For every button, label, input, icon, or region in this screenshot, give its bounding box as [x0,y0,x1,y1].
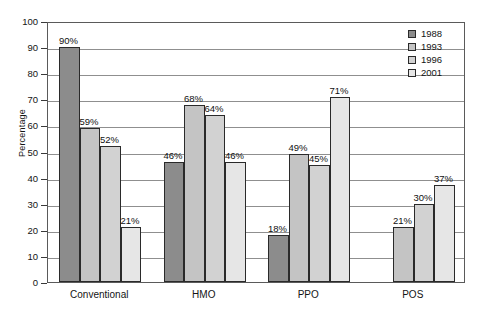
x-axis-category-label: Conventional [47,289,152,301]
bar-value-label: 21% [386,216,419,226]
y-axis-tick [41,22,47,23]
bar [268,235,289,282]
bar-value-label: 52% [93,135,126,145]
y-axis-tick [41,48,47,49]
y-axis-tick-label: 10 [0,252,38,261]
bar [184,105,205,282]
legend-item[interactable]: 1996 [408,54,442,66]
y-axis-tick [41,231,47,232]
legend-swatch-icon [408,56,416,64]
y-axis-tick [41,283,47,284]
bar-value-label: 49% [282,143,315,153]
bar-value-label: 30% [407,193,440,203]
legend-item-label: 1988 [421,29,442,39]
y-axis-tick-label: 100 [0,17,38,26]
legend-item-label: 1996 [421,55,442,65]
gridline [48,49,464,50]
y-axis-tick-label: 70 [0,95,38,104]
bar-value-label: 71% [323,86,356,96]
bar [121,227,142,282]
y-axis-tick-label: 90 [0,43,38,52]
bar-chart: Percentage 0102030405060708090100 Conven… [0,0,487,322]
legend-item-label: 1993 [421,42,442,52]
bar-value-label: 21% [114,216,147,226]
gridline [48,75,464,76]
bar-value-label: 46% [157,151,190,161]
gridline [48,101,464,102]
legend-item[interactable]: 1993 [408,41,442,53]
y-axis-tick [41,205,47,206]
bar [225,162,246,282]
bar [289,154,310,282]
bar-value-label: 64% [198,104,231,114]
bar-value-label: 59% [73,117,106,127]
plot-area [47,22,465,283]
bar-value-label: 37% [427,174,460,184]
bar-value-label: 90% [52,36,85,46]
bar-value-label: 46% [218,151,251,161]
gridline [48,127,464,128]
bar-value-label: 45% [302,154,335,164]
x-axis-category-label: HMO [152,289,257,301]
y-axis-tick-label: 20 [0,226,38,235]
bar [80,128,101,282]
y-axis-tick-label: 80 [0,69,38,78]
y-axis-tick-label: 40 [0,174,38,183]
bar [205,115,226,282]
y-axis-tick [41,179,47,180]
y-axis-tick [41,74,47,75]
y-axis-tick-label: 50 [0,148,38,157]
bar [393,227,414,282]
legend-swatch-icon [408,30,416,38]
x-axis-category-label: PPO [256,289,361,301]
legend-item[interactable]: 2001 [408,67,442,79]
y-axis-tick [41,126,47,127]
y-axis-tick [41,100,47,101]
y-axis-tick-label: 0 [0,278,38,287]
legend-item[interactable]: 1988 [408,28,442,40]
legend-item-label: 2001 [421,68,442,78]
bar [330,97,351,282]
y-axis-tick [41,257,47,258]
legend: 1988199319962001 [408,28,442,80]
legend-swatch-icon [408,69,416,77]
y-axis-tick-label: 30 [0,200,38,209]
x-axis-category-label: POS [361,289,466,301]
bar [100,146,121,282]
bar-value-label: 18% [261,224,294,234]
y-axis-tick [41,153,47,154]
legend-swatch-icon [408,43,416,51]
bar [164,162,185,282]
bar [59,47,80,282]
y-axis-tick-label: 60 [0,121,38,130]
bar [309,165,330,282]
